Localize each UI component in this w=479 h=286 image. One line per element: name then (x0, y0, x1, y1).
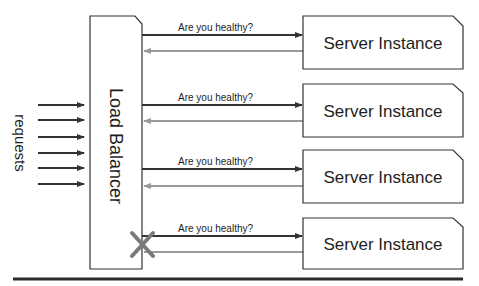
load-balancer-node: Load Balancer (90, 16, 142, 269)
health-check-label: Are you healthy? (178, 156, 253, 167)
server-instance-label: Server Instance (323, 102, 442, 121)
health-check-label: Are you healthy? (178, 22, 253, 33)
load-balancer-label: Load Balancer (106, 88, 126, 204)
load-balancer-health-check-diagram: requests Load Balancer Are you healthy? … (0, 0, 479, 286)
server-instance-label: Server Instance (323, 34, 442, 53)
server-row-4: Are you healthy? Server Instance (132, 218, 463, 269)
server-row-3: Are you healthy? Server Instance (142, 150, 463, 203)
server-instance-label: Server Instance (323, 235, 442, 254)
server-instance-label: Server Instance (323, 168, 442, 187)
requests-label: requests (12, 114, 29, 172)
server-row-2: Are you healthy? Server Instance (142, 84, 463, 137)
health-check-label: Are you healthy? (178, 92, 253, 103)
request-arrows (38, 105, 84, 184)
health-check-label: Are you healthy? (178, 223, 253, 234)
server-row-1: Are you healthy? Server Instance (142, 16, 463, 69)
